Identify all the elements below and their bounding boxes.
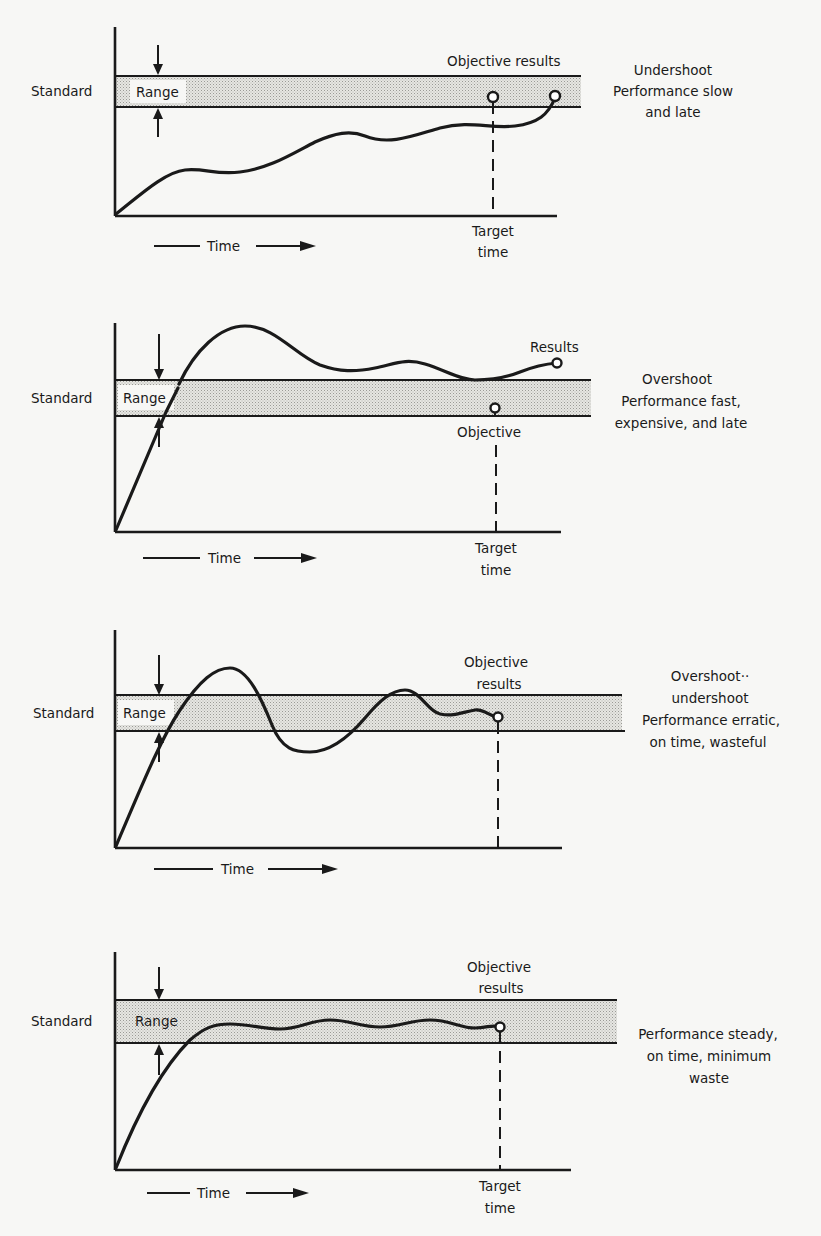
target-time-label: Target bbox=[478, 1178, 521, 1194]
svg-text:on time, wasteful: on time, wasteful bbox=[649, 734, 766, 750]
range-band bbox=[116, 1000, 617, 1043]
arrow-right-icon bbox=[322, 864, 338, 874]
svg-text:Overshoot··: Overshoot·· bbox=[671, 668, 749, 684]
objective-label: Objective bbox=[457, 424, 521, 440]
svg-text:Performance fast,: Performance fast, bbox=[621, 393, 740, 409]
svg-text:expensive, and late: expensive, and late bbox=[615, 415, 747, 431]
panel-overshoot-undershoot: Range Standard Objective results Oversho… bbox=[33, 630, 780, 877]
range-band bbox=[116, 380, 591, 416]
svg-text:Time: Time bbox=[196, 1185, 230, 1201]
description: Undershoot Performance slow and late bbox=[613, 62, 733, 120]
arrow-down-icon bbox=[154, 369, 164, 380]
arrow-right-icon bbox=[301, 553, 317, 563]
objective-marker bbox=[491, 404, 500, 413]
svg-text:waste: waste bbox=[689, 1070, 729, 1086]
results-label: Results bbox=[530, 339, 579, 355]
range-label: Range bbox=[136, 84, 179, 100]
arrow-up-icon bbox=[154, 1044, 164, 1055]
time-axis-label: Time bbox=[147, 1185, 309, 1201]
arrow-right-icon bbox=[300, 241, 316, 251]
results-marker bbox=[553, 359, 562, 368]
svg-text:undershoot: undershoot bbox=[672, 690, 749, 706]
time-axis-label: Time bbox=[143, 550, 317, 566]
svg-text:time: time bbox=[478, 244, 509, 260]
arrow-right-icon bbox=[293, 1188, 309, 1198]
svg-text:on time, minimum: on time, minimum bbox=[647, 1048, 771, 1064]
objective-results-marker bbox=[496, 1023, 505, 1032]
objective-results-label: Objective bbox=[467, 959, 531, 975]
svg-text:Time: Time bbox=[207, 550, 241, 566]
svg-text:Overshoot: Overshoot bbox=[642, 371, 712, 387]
svg-text:time: time bbox=[485, 1200, 516, 1216]
objective-results-label: Objective bbox=[464, 654, 528, 670]
svg-text:time: time bbox=[481, 562, 512, 578]
panel-overshoot: Range Standard Results Objective Oversho… bbox=[31, 323, 747, 578]
performance-curve bbox=[116, 98, 555, 214]
range-label: Range bbox=[123, 705, 166, 721]
results-marker bbox=[550, 91, 560, 101]
time-axis-label: Time bbox=[154, 238, 316, 254]
svg-text:and late: and late bbox=[645, 104, 700, 120]
svg-text:Time: Time bbox=[220, 861, 254, 877]
svg-text:Performance steady,: Performance steady, bbox=[638, 1026, 778, 1042]
svg-text:Time: Time bbox=[206, 238, 240, 254]
arrow-down-icon bbox=[153, 64, 163, 75]
standard-label: Standard bbox=[31, 83, 92, 99]
target-time-label: Target bbox=[474, 540, 517, 556]
svg-text:results: results bbox=[478, 980, 523, 996]
description: Overshoot Performance fast, expensive, a… bbox=[615, 371, 747, 431]
standard-label: Standard bbox=[33, 705, 94, 721]
arrow-down-icon bbox=[154, 684, 164, 695]
svg-text:Performance slow: Performance slow bbox=[613, 83, 733, 99]
standard-label: Standard bbox=[31, 1013, 92, 1029]
arrow-down-icon bbox=[154, 989, 164, 1000]
range-label: Range bbox=[135, 1013, 178, 1029]
performance-diagram: Range Standard Objective results Undersh… bbox=[0, 0, 821, 1236]
target-time-label: Target bbox=[471, 223, 514, 239]
svg-text:Performance erratic,: Performance erratic, bbox=[642, 712, 780, 728]
svg-text:Undershoot: Undershoot bbox=[634, 62, 712, 78]
panel-steady: Range Standard Objective results Perform… bbox=[31, 952, 778, 1216]
panel-undershoot: Range Standard Objective results Undersh… bbox=[31, 27, 733, 260]
objective-marker bbox=[488, 92, 498, 102]
svg-text:results: results bbox=[476, 676, 521, 692]
standard-label: Standard bbox=[31, 390, 92, 406]
description: Performance steady, on time, minimum was… bbox=[638, 1026, 778, 1086]
objective-results-marker bbox=[494, 713, 503, 722]
description: Overshoot·· undershoot Performance errat… bbox=[642, 668, 780, 750]
arrow-up-icon bbox=[153, 108, 163, 119]
time-axis-label: Time bbox=[154, 861, 338, 877]
range-label: Range bbox=[123, 390, 166, 406]
objective-results-label: Objective results bbox=[447, 53, 561, 69]
